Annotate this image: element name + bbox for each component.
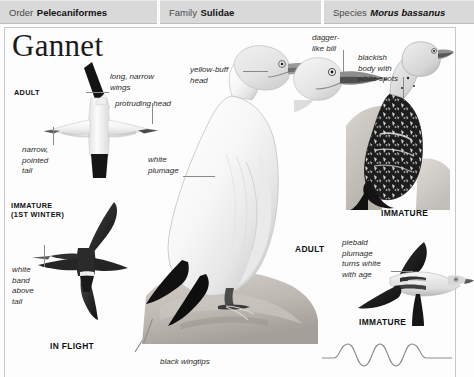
annotation-long-narrow-wings: long, narrow wings	[110, 72, 170, 93]
caption-adult-perched: ADULT	[295, 245, 325, 254]
annotation-blackish-body-white-spots: blackish body with white spots	[358, 53, 420, 85]
annotation-white-plumage: white plumage	[148, 155, 196, 176]
leader-narrow-pointed-tail	[53, 127, 54, 145]
leader-yellow-buff-head	[243, 71, 268, 72]
annotation-piebald-plumage: piebald plumage turns white with age	[342, 238, 404, 280]
species-label: Species	[333, 7, 367, 18]
caption-immature-perched: IMMATURE	[381, 209, 428, 218]
figure-flight-pattern-wave	[322, 340, 452, 372]
species-value: Morus bassanus	[370, 7, 445, 18]
annotation-dagger-like-bill: dagger- like bill	[312, 33, 360, 54]
annotation-protruding-head: protruding head	[115, 99, 195, 110]
annotation-white-band-above-tail: white band above tail	[12, 265, 52, 307]
order-label: Order	[9, 7, 33, 18]
leader-black-wingtips-b	[135, 340, 143, 352]
taxonomy-cell-species: Species Morus bassanus	[324, 0, 474, 24]
caption-immature-flying: IMMATURE	[359, 318, 406, 327]
family-value: Sulidae	[200, 7, 234, 18]
caption-in-flight: IN FLIGHT	[50, 342, 94, 351]
leader-white-plumage	[183, 176, 215, 177]
page-title: Gannet	[12, 30, 103, 61]
taxonomy-cell-family: Family Sulidae	[160, 0, 321, 24]
annotation-black-wingtips: black wingtips	[160, 357, 250, 368]
taxonomy-header: Order Pelecaniformes Family Sulidae Spec…	[0, 0, 474, 24]
annotation-yellow-buff-head: yellow-buff head	[190, 65, 246, 86]
order-value: Pelecaniformes	[37, 7, 107, 18]
taxonomy-cell-order: Order Pelecaniformes	[0, 0, 157, 24]
annotation-narrow-pointed-tail: narrow, pointed tail	[22, 145, 74, 177]
leader-long-narrow-wings	[86, 92, 109, 93]
page-left-rule	[4, 27, 5, 377]
leader-dagger-like-bill	[343, 50, 344, 77]
family-label: Family	[169, 7, 197, 18]
field-guide-page: Order Pelecaniformes Family Sulidae Spec…	[0, 0, 474, 377]
leader-white-band	[44, 245, 45, 267]
caption-adult-flight: ADULT	[14, 88, 40, 97]
caption-immature-first-winter: IMMATURE (1ST WINTER)	[11, 201, 64, 219]
